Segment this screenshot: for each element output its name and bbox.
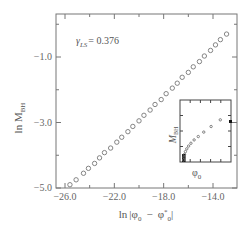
data-point: [170, 86, 174, 90]
y-axis-label: ln MBH: [12, 103, 27, 134]
data-point: [159, 97, 163, 101]
data-point: [153, 102, 157, 106]
data-point: [131, 124, 135, 128]
y-tick-label: −3.0: [34, 117, 52, 128]
data-point: [208, 48, 212, 52]
gamma-annotation: γLS= 0.376: [76, 35, 119, 49]
data-point: [202, 54, 206, 58]
x-tick-label: −22.0: [103, 191, 126, 202]
data-point: [108, 146, 112, 150]
data-point: [175, 81, 179, 85]
data-point: [142, 113, 146, 117]
x-tick-label: −26.0: [53, 191, 76, 202]
data-point: [126, 129, 130, 133]
x-tick-label: −18.0: [152, 191, 175, 202]
inset-plot: MBH φ0: [167, 100, 232, 181]
data-point: [186, 70, 190, 74]
data-point: [86, 166, 90, 170]
data-point: [213, 43, 217, 47]
chart: −26.0−22.0−18.0−14.0 −1.0−3.0−5.0 γLS= 0…: [0, 0, 251, 231]
x-axis-label: ln|φ0−φ*0|: [119, 208, 173, 223]
x-tick-label: −14.0: [201, 191, 224, 202]
data-point: [218, 37, 222, 41]
data-point: [224, 32, 228, 36]
data-point: [148, 108, 152, 112]
inset-y-label: MBH: [167, 126, 179, 144]
data-point: [81, 171, 85, 175]
data-point: [102, 150, 106, 154]
data-point: [197, 59, 201, 63]
data-point: [115, 140, 119, 144]
inset-x-label: φ0: [192, 167, 202, 181]
data-point: [97, 156, 101, 160]
data-point: [74, 178, 78, 182]
y-tick-label: −1.0: [34, 51, 52, 62]
data-point: [92, 161, 96, 165]
data-point: [180, 75, 184, 79]
data-point: [191, 65, 195, 69]
data-point: [120, 135, 124, 139]
data-point: [164, 91, 168, 95]
data-point: [137, 119, 141, 123]
y-tick-label: −5.0: [34, 182, 52, 193]
data-point: [68, 183, 72, 187]
